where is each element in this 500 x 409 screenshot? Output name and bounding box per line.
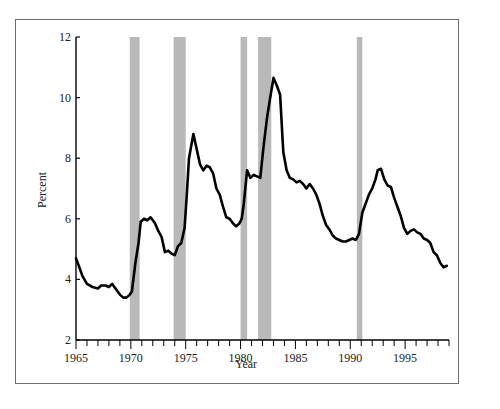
unemployment-line-chart: 24681012 1965197019751980198519901995 Ye… xyxy=(0,0,500,409)
x-tick-label: 1975 xyxy=(174,351,198,365)
x-tick-label: 1985 xyxy=(283,351,307,365)
y-tick-label: 8 xyxy=(65,151,71,165)
y-tick-label: 6 xyxy=(65,212,71,226)
y-axis-title: Percent xyxy=(35,171,49,208)
y-tick-label: 12 xyxy=(59,30,71,44)
x-tick-label: 1970 xyxy=(119,351,143,365)
recession-band xyxy=(357,37,362,340)
y-axis-ticks: 24681012 xyxy=(59,30,80,347)
y-tick-label: 10 xyxy=(59,91,71,105)
x-tick-label: 1995 xyxy=(393,351,417,365)
x-tick-label: 1965 xyxy=(64,351,88,365)
axes: 24681012 1965197019751980198519901995 xyxy=(59,30,449,365)
x-tick-label: 1990 xyxy=(338,351,362,365)
x-axis-title: Year xyxy=(235,357,257,371)
recession-band xyxy=(174,37,186,340)
y-tick-label: 2 xyxy=(65,333,71,347)
y-tick-label: 4 xyxy=(65,272,71,286)
recession-band xyxy=(258,37,271,340)
